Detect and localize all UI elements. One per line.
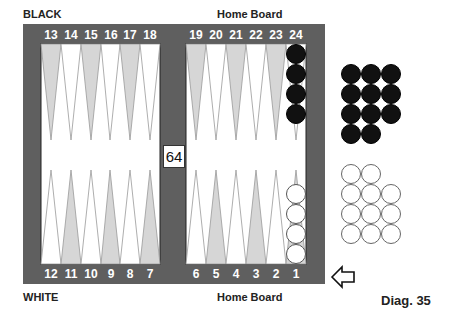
point-number: 7 bbox=[140, 267, 160, 281]
point-number: 17 bbox=[120, 28, 140, 42]
left-arrow-icon bbox=[332, 267, 354, 287]
point-number: 1 bbox=[286, 267, 306, 281]
white-checker[interactable] bbox=[287, 205, 306, 224]
pip-count-box: 64 bbox=[163, 145, 185, 168]
point-number: 22 bbox=[246, 28, 266, 42]
black-checker[interactable] bbox=[287, 65, 306, 84]
white-borne-off bbox=[342, 165, 401, 244]
black-checker[interactable] bbox=[287, 105, 306, 124]
point-number: 23 bbox=[266, 28, 286, 42]
point-number: 5 bbox=[206, 267, 226, 281]
white-checker[interactable] bbox=[287, 245, 306, 264]
point-number: 8 bbox=[120, 267, 140, 281]
point-number: 10 bbox=[81, 267, 101, 281]
point-number: 18 bbox=[140, 28, 160, 42]
point-number: 19 bbox=[186, 28, 206, 42]
point-number: 11 bbox=[61, 267, 81, 281]
point-number: 6 bbox=[186, 267, 206, 281]
white-checker[interactable] bbox=[287, 225, 306, 244]
point-number: 9 bbox=[101, 267, 121, 281]
black-borne-off bbox=[342, 65, 401, 144]
point-number: 21 bbox=[226, 28, 246, 42]
point-number: 12 bbox=[41, 267, 61, 281]
point-number: 4 bbox=[226, 267, 246, 281]
point-number: 20 bbox=[206, 28, 226, 42]
left-field bbox=[41, 44, 160, 264]
point-number: 13 bbox=[41, 28, 61, 42]
point-number: 14 bbox=[61, 28, 81, 42]
point-number: 16 bbox=[101, 28, 121, 42]
point-number: 3 bbox=[246, 267, 266, 281]
black-checker[interactable] bbox=[287, 85, 306, 104]
point-number: 2 bbox=[266, 267, 286, 281]
point-number: 15 bbox=[81, 28, 101, 42]
black-checker[interactable] bbox=[287, 45, 306, 64]
point-number: 24 bbox=[286, 28, 306, 42]
white-checker[interactable] bbox=[287, 185, 306, 204]
